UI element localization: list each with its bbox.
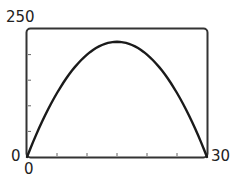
y-min-label: 0 xyxy=(11,149,21,164)
parabola-curve xyxy=(27,42,207,157)
x-max-label: 30 xyxy=(211,149,230,164)
y-max-label: 250 xyxy=(6,10,35,25)
plot-area xyxy=(0,0,232,177)
viewing-window-frame xyxy=(27,29,208,158)
x-min-label: 0 xyxy=(24,162,34,177)
y-axis-ticks xyxy=(28,55,31,132)
x-axis-ticks xyxy=(57,153,177,156)
